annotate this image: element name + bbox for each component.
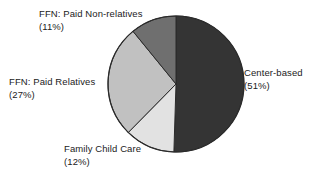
pie-slices: [108, 16, 244, 152]
pie-label-family-child-care-name: Family Child Care: [64, 143, 141, 156]
pie-label-center-based: Center-based (51%): [244, 67, 303, 92]
pie-label-ffn-paid-non-relatives-percent: (11%): [39, 21, 143, 34]
pie-label-ffn-paid-relatives: FFN: Paid Relatives (27%): [9, 76, 95, 101]
pie-label-center-based-name: Center-based: [244, 67, 303, 80]
pie-label-ffn-paid-relatives-name: FFN: Paid Relatives: [9, 76, 95, 89]
pie-label-family-child-care: Family Child Care (12%): [64, 143, 141, 168]
pie-label-ffn-paid-non-relatives: FFN: Paid Non-relatives (11%): [39, 8, 143, 33]
pie-chart-figure: FFN: Paid Non-relatives (11%) FFN: Paid …: [0, 0, 323, 179]
pie-slice-center-based[interactable]: [174, 16, 244, 152]
pie-label-ffn-paid-relatives-percent: (27%): [9, 89, 95, 102]
pie-label-family-child-care-percent: (12%): [64, 156, 141, 169]
pie-label-center-based-percent: (51%): [244, 80, 303, 93]
pie-label-ffn-paid-non-relatives-name: FFN: Paid Non-relatives: [39, 8, 143, 21]
